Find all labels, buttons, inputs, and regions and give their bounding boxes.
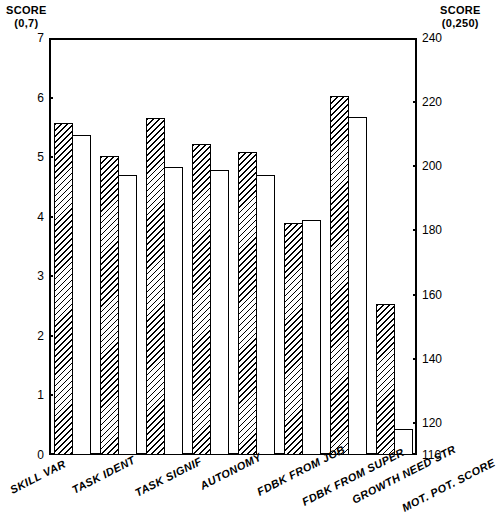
bar-open [118, 175, 137, 455]
bar-open [164, 167, 183, 455]
left-axis-caption-title: SCORE [6, 4, 47, 16]
left-axis-tick-label: 7 [18, 32, 44, 44]
x-axis-label: TASK SIGNIF [133, 455, 204, 499]
right-axis-tick-label: 120 [422, 417, 456, 429]
left-axis-tick-label: 3 [18, 270, 44, 282]
bar-hatched [54, 123, 73, 455]
bar-hatched [238, 152, 257, 455]
x-axis-label: SKILL VAR [8, 457, 67, 495]
x-axis-labels: SKILL VARTASK IDENTTASK SIGNIFAUTONOMYFD… [0, 455, 493, 522]
bar-open [302, 220, 321, 455]
x-axis-label: AUTONOMY [198, 451, 263, 492]
bar-group [192, 38, 230, 455]
bar-group [330, 38, 368, 455]
bar-open [72, 135, 91, 455]
bar-hatched [330, 96, 349, 455]
right-axis-caption-title: SCORE [440, 4, 481, 16]
bar-group [146, 38, 184, 455]
bar-hatched [376, 304, 395, 455]
right-axis-caption-range: (0,250) [440, 17, 481, 30]
bar-hatched [146, 118, 165, 455]
bar-hatched [192, 144, 211, 455]
left-axis-caption: SCORE (0,7) [6, 4, 47, 30]
left-axis-caption-range: (0,7) [6, 17, 47, 30]
left-axis-tick-label: 6 [18, 92, 44, 104]
right-axis-tick-label: 200 [422, 160, 456, 172]
bar-group [238, 38, 276, 455]
bar-group [284, 38, 322, 455]
right-axis-tick-label: 160 [422, 289, 456, 301]
right-axis-caption: SCORE (0,250) [440, 4, 481, 30]
bar-group [376, 38, 414, 455]
right-axis-tick-label: 240 [422, 32, 456, 44]
bars-layer [49, 38, 417, 455]
left-axis-tick-label: 2 [18, 330, 44, 342]
bar-open [348, 117, 367, 455]
right-axis-tick-label: 140 [422, 353, 456, 365]
left-axis-tick-label: 1 [18, 389, 44, 401]
bar-group [100, 38, 138, 455]
right-axis-tick-label: 220 [422, 96, 456, 108]
bar-group [54, 38, 92, 455]
right-axis-tick-label: 180 [422, 224, 456, 236]
left-axis-tick-label: 4 [18, 211, 44, 223]
bar-open [210, 170, 229, 455]
bar-open [256, 175, 275, 455]
bar-hatched [100, 156, 119, 455]
left-axis-tick-label: 5 [18, 151, 44, 163]
bar-hatched [284, 223, 303, 455]
x-axis-label: TASK IDENT [70, 454, 137, 496]
